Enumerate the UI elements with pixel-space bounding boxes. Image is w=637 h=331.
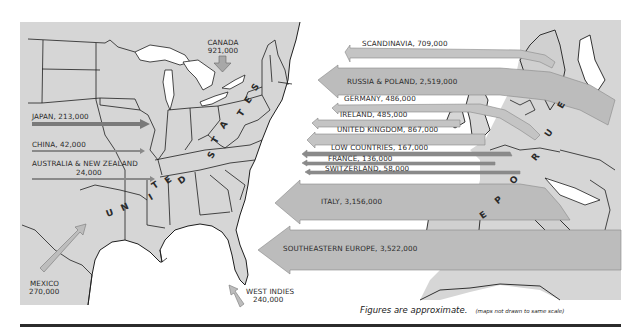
footnote-sub: (maps not drawn to same scale) (475, 308, 564, 314)
label-germany: GERMANY, 486,000 (344, 95, 416, 103)
west-indies-arrow (229, 285, 244, 307)
label-ireland: IRELAND, 485,000 (340, 111, 408, 119)
footnote: Figures are approximate. (maps not drawn… (360, 298, 564, 317)
label-west-indies-value: 240,000 (253, 296, 283, 304)
label-australia: AUSTRALIA & NEW ZEALAND (32, 160, 138, 168)
label-russia-poland: RUSSIA & POLAND, 2,519,000 (347, 78, 457, 86)
label-scandinavia: SCANDINAVIA, 709,000 (362, 40, 448, 48)
label-china: CHINA, 42,000 (32, 141, 86, 149)
footnote-main: Figures are approximate. (360, 305, 467, 315)
bottom-rule (20, 324, 621, 327)
label-italy: ITALY, 3,156,000 (321, 198, 382, 206)
label-switzerland: SWITZERLAND, 58,000 (325, 165, 409, 173)
label-united-kingdom: UNITED KINGDOM, 867,000 (337, 126, 438, 134)
label-southeastern-europe: SOUTHEASTERN EUROPE, 3,522,000 (283, 245, 417, 253)
label-canada-value: 921,000 (207, 47, 239, 55)
label-mexico-value: 270,000 (29, 288, 59, 296)
label-japan: JAPAN, 213,000 (32, 113, 89, 121)
label-australia-value: 24,000 (76, 169, 102, 177)
label-france: FRANCE, 136,000 (328, 155, 392, 163)
immigration-map: JAPAN, 213,000 CHINA, 42,000 AUSTRALIA &… (0, 0, 637, 331)
label-low-countries: LOW COUNTRIES, 167,000 (331, 144, 428, 152)
